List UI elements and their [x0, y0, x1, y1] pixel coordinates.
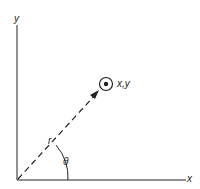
- diagram-graphics: [0, 0, 200, 189]
- radius-vector: [18, 94, 96, 179]
- radius-label: r: [48, 136, 51, 146]
- point-label: x,y: [117, 79, 130, 89]
- polar-coordinates-diagram: y x x,y r θ: [0, 0, 200, 189]
- arrowhead-icon: [90, 90, 99, 99]
- angle-label: θ: [63, 157, 68, 167]
- point-dot: [104, 82, 108, 86]
- x-axis-label: x: [187, 174, 192, 184]
- y-axis-label: y: [14, 14, 19, 24]
